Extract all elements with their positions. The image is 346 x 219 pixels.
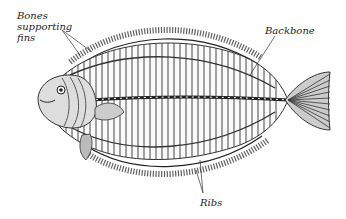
- label-bones-supporting-fins: Bones supporting fins: [17, 10, 72, 43]
- tail-fin: [285, 72, 330, 130]
- label-ribs: Ribs: [200, 197, 222, 208]
- label-line: Bones: [17, 10, 72, 21]
- pelvic-fin: [80, 134, 92, 160]
- label-backbone: Backbone: [265, 25, 315, 36]
- label-line: fins: [17, 32, 72, 43]
- fish-head: [38, 75, 96, 128]
- label-line: supporting: [17, 21, 72, 32]
- flatfish-skeleton-diagram: Bones supporting fins Backbone Ribs: [0, 0, 346, 219]
